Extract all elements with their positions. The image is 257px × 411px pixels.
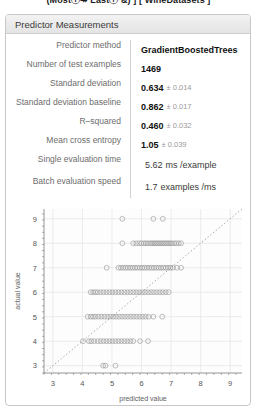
measurement-number: 1.7 [145,182,158,192]
measurement-row: Number of test examples 1469 [6,59,250,78]
measurement-row: R–squared 0.460 ± 0.032 [6,116,250,135]
measurement-value: 0.634 ± 0.014 [130,78,250,97]
measurement-label: Single evaluation time [6,154,130,164]
measurement-label: Predictor method [6,40,130,50]
measurement-value: 0.460 ± 0.032 [130,116,250,135]
measurement-label: Standard deviation [6,78,130,88]
measurement-label: Standard deviation baseline [6,97,130,107]
measurement-number: 1.05 [141,140,159,150]
y-tick-label: 3 [33,361,37,370]
measurement-value: 1.05 ± 0.039 [130,135,250,154]
measurements-list: Predictor method GradientBoostedTrees Nu… [6,34,250,198]
measurement-number: 0.634 [141,83,164,93]
measurement-label: Number of test examples [6,59,130,69]
y-tick-label: 4 [33,337,37,346]
measurement-value: 5.62 ms /example [130,154,250,176]
x-tick-label: 3 [51,379,55,388]
x-tick-label: 5 [110,379,114,388]
scatter-svg: 34567893456789predicted valueactual valu… [6,201,250,406]
x-tick-label: 8 [199,379,203,388]
measurement-label: Batch evaluation speed [6,176,130,186]
measurement-value: 1.7 examples /ms [130,176,250,198]
measurement-error: ± 0.032 [167,121,192,130]
measurement-value: 1469 [130,59,250,78]
measurement-row: Batch evaluation speed 1.7 examples /ms [6,176,250,198]
measurement-error: ± 0.017 [167,102,192,111]
x-tick-label: 9 [228,379,232,388]
measurement-row: Predictor method GradientBoostedTrees [6,40,250,59]
y-tick-label: 7 [33,264,37,273]
measurement-row: Single evaluation time 5.62 ms /example [6,154,250,176]
x-axis-title: predicted value [119,395,167,403]
measurement-unit: ms /example [166,160,217,170]
x-tick-label: 7 [169,379,173,388]
actual-vs-predicted-scatter-plot: 34567893456789predicted valueactual valu… [6,201,250,406]
measurement-row: Standard deviation 0.634 ± 0.014 [6,78,250,97]
measurement-row: Mean cross entropy 1.05 ± 0.039 [6,135,250,154]
measurement-number: GradientBoostedTrees [141,45,238,55]
measurement-value: 0.862 ± 0.017 [130,97,250,116]
x-tick-label: 4 [80,379,84,388]
y-tick-label: 6 [33,288,37,297]
measurement-error: ± 0.014 [167,83,192,92]
measurement-label: R–squared [6,116,130,126]
y-tick-label: 5 [33,313,37,322]
panel-header: Predictor Measurements [6,15,250,34]
measurement-error: ± 0.039 [162,140,187,149]
context-breadcrumb: (Mostⓘ↠ Lastⓘ &) ] [ WineDatasets ] [0,0,257,12]
measurement-label: Mean cross entropy [6,135,130,145]
context-breadcrumb-text: (Mostⓘ↠ Lastⓘ &) ] [ WineDatasets ] [47,0,211,5]
y-axis-title: actual value [14,272,21,309]
y-tick-label: 8 [33,239,37,248]
predictor-measurements-panel: Predictor Measurements Predictor method … [5,14,251,406]
panel-title: Predictor Measurements [15,19,118,30]
measurement-number: 0.862 [141,102,164,112]
measurement-number: 1469 [141,64,161,74]
measurement-number: 5.62 [145,160,163,170]
measurement-unit: examples /ms [161,182,217,192]
y-tick-label: 9 [33,215,37,224]
measurement-row: Standard deviation baseline 0.862 ± 0.01… [6,97,250,116]
x-tick-label: 6 [139,379,143,388]
measurement-number: 0.460 [141,121,164,131]
measurement-value: GradientBoostedTrees [130,40,250,59]
